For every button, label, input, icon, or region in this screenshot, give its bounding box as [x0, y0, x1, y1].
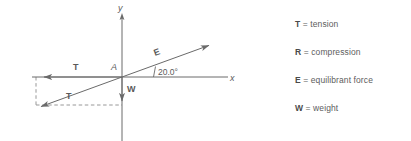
legend-definition-R: = compression [304, 47, 361, 57]
y-axis-label: y [117, 3, 123, 13]
legend-symbol-T: T [295, 19, 300, 29]
legend: T = tension R = compression E = equilibr… [295, 0, 411, 141]
vector-E-label: E [152, 46, 161, 57]
legend-item-weight: W = weight [295, 103, 338, 113]
vector-R [41, 77, 122, 107]
legend-definition-W: = weight [306, 103, 339, 113]
legend-definition-E: = equilibrant force [303, 75, 373, 85]
legend-symbol-W: W [295, 103, 303, 113]
figure-page: y x E T T W A 20.0° T = tension [0, 0, 411, 141]
origin-label: A [110, 62, 117, 72]
legend-symbol-E: E [295, 75, 301, 85]
diagram-svg: y x E T T W A 20.0° [0, 0, 260, 141]
legend-symbol-R: R [295, 47, 301, 57]
vector-W-label: W [127, 84, 136, 94]
legend-item-equilibrant-force: E = equilibrant force [295, 75, 373, 85]
angle-arc [154, 67, 156, 78]
vector-T-label: T [73, 62, 79, 72]
vector-R-label: T [66, 91, 72, 101]
legend-item-tension: T = tension [295, 19, 338, 29]
legend-item-compression: R = compression [295, 47, 361, 57]
angle-label: 20.0° [158, 67, 178, 77]
x-axis-label: x [229, 73, 235, 83]
legend-definition-T: = tension [303, 19, 339, 29]
force-vector-diagram: y x E T T W A 20.0° [0, 0, 260, 141]
